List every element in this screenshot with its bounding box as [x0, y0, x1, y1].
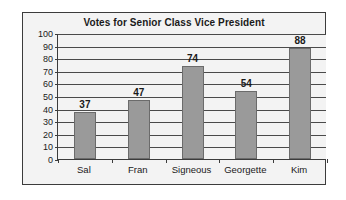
x-axis-label: Fran	[128, 165, 148, 175]
x-axis-tick	[219, 159, 220, 163]
y-axis-label: 20	[43, 130, 53, 139]
bar: 74	[182, 66, 204, 159]
y-axis-label: 40	[43, 105, 53, 114]
y-axis-label: 70	[43, 67, 53, 76]
y-axis-tick	[55, 72, 58, 73]
y-axis-tick	[55, 84, 58, 85]
x-axis-tick	[273, 159, 274, 163]
bar: 54	[235, 91, 257, 159]
y-axis-label: 90	[43, 42, 53, 51]
gridline	[58, 34, 326, 35]
chart-figure: Votes for Senior Class Vice President 01…	[22, 12, 326, 185]
bar: 88	[289, 48, 311, 159]
x-axis-label: Signeous	[172, 165, 212, 175]
plot-area: 0102030405060708090100 3747745488	[57, 34, 326, 160]
bar: 47	[128, 100, 150, 159]
bar-value-label: 47	[133, 88, 144, 98]
x-axis-label: Georgette	[224, 165, 266, 175]
y-axis-tick	[55, 59, 58, 60]
chart-title: Votes for Senior Class Vice President	[23, 17, 325, 28]
y-axis-label: 0	[48, 156, 53, 165]
bar: 37	[74, 112, 96, 159]
bar-value-label: 37	[79, 100, 90, 110]
y-axis-label: 30	[43, 118, 53, 127]
y-axis-label: 10	[43, 143, 53, 152]
y-axis-tick	[55, 135, 58, 136]
bar-value-label: 54	[241, 79, 252, 89]
x-axis-tick	[327, 159, 328, 163]
y-axis-tick	[55, 147, 58, 148]
y-axis-tick	[55, 110, 58, 111]
y-axis-tick	[55, 34, 58, 35]
y-axis-label: 60	[43, 80, 53, 89]
x-axis-tick	[58, 159, 59, 163]
y-axis-tick	[55, 47, 58, 48]
x-axis-label: Sal	[77, 165, 91, 175]
bar-value-label: 88	[295, 36, 306, 46]
bar-value-label: 74	[187, 54, 198, 64]
y-axis-tick	[55, 97, 58, 98]
x-axis-label: Kim	[291, 165, 307, 175]
x-axis-tick	[166, 159, 167, 163]
y-axis-tick	[55, 122, 58, 123]
y-axis-label: 50	[43, 93, 53, 102]
y-axis-label: 100	[38, 30, 53, 39]
y-axis-label: 80	[43, 55, 53, 64]
gridline	[58, 47, 326, 48]
x-axis-tick	[112, 159, 113, 163]
